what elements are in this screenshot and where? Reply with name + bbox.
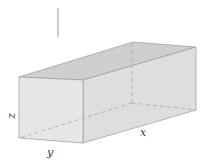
y-axis-label: y — [46, 146, 54, 159]
box-diagram: z y x — [0, 0, 213, 164]
z-axis-label: z — [6, 112, 19, 119]
x-axis-label: x — [140, 126, 147, 139]
box-front-face — [19, 77, 83, 143]
